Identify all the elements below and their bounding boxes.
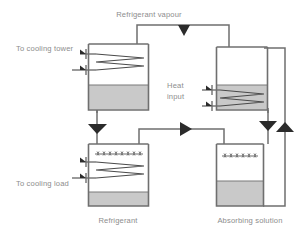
- evaporator-liquid: [89, 192, 149, 206]
- absorber-liquid: [217, 181, 264, 206]
- condenser-vessel: [72, 44, 149, 113]
- solution-right-arrow: [180, 122, 192, 136]
- evaporator-coil: [96, 162, 144, 178]
- absorbing-solution-label: Absorbing solution: [217, 216, 282, 225]
- vapour-flow-arrow: [178, 25, 190, 36]
- weak-solution-up-arrow: [276, 122, 294, 132]
- condensate-down-arrow: [88, 124, 107, 134]
- condenser-coil: [96, 54, 144, 70]
- to-cooling-load-label: To cooling load: [16, 179, 69, 188]
- evaporator-vessel: [72, 144, 149, 206]
- refrigerant-label: Refrigerant: [98, 216, 138, 225]
- to-cooling-tower-label: To cooling tower: [16, 44, 74, 53]
- absorber-vessel: [217, 144, 264, 206]
- absorption-cycle-diagram: Refrigerant vapour To cooling tower Heat…: [0, 0, 303, 238]
- heat-input-label-line1: Heat: [167, 81, 184, 90]
- refrigerant-vapour-label: Refrigerant vapour: [116, 10, 182, 19]
- strong-solution-down-arrow: [259, 121, 277, 131]
- cooling-tower-in-arrow: [80, 50, 86, 55]
- heat-input-label-line2: input: [167, 92, 185, 101]
- condenser-liquid: [89, 85, 149, 110]
- generator-vessel: [202, 47, 268, 113]
- diagram-canvas: Refrigerant vapour To cooling tower Heat…: [0, 0, 303, 238]
